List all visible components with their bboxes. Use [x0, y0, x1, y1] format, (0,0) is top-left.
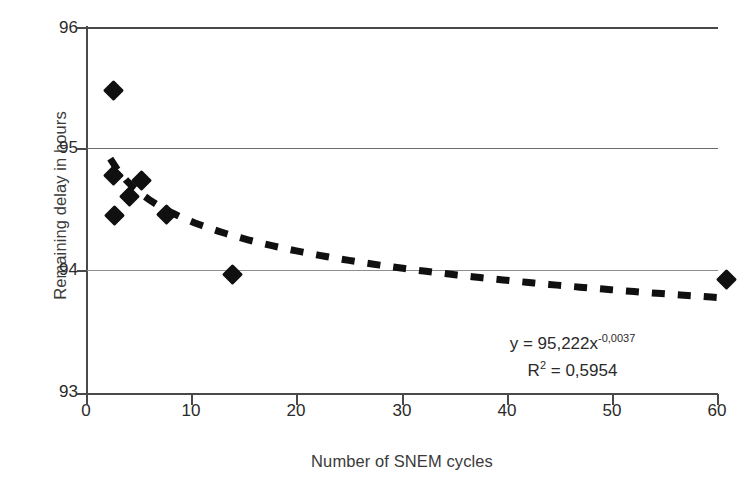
- x-tickmark-20: [296, 394, 298, 405]
- scatter-chart-figure: Remaining delay in hours 96 95 94 93 0 1…: [0, 0, 739, 493]
- x-tickmark-60: [717, 394, 719, 405]
- equation-line-2: R2 = 0,5954: [430, 357, 715, 384]
- y-tick-label-93: 93: [34, 383, 78, 400]
- y-tick-label-96: 96: [34, 19, 78, 36]
- x-tickmark-10: [191, 394, 193, 405]
- y-tick-label-94: 94: [34, 261, 78, 278]
- equation-line-1: y = 95,222x-0,0037: [430, 330, 715, 357]
- equation-base: y = 95,222x: [510, 334, 598, 353]
- y-axis-tick-labels: 96 95 94 93: [22, 0, 78, 493]
- trendline-equation-annotation: y = 95,222x-0,0037 R2 = 0,5954: [430, 330, 715, 384]
- x-tickmark-40: [507, 394, 509, 405]
- x-tick-label-60: 60: [692, 402, 739, 419]
- r-squared-value: = 0,5954: [546, 361, 617, 380]
- x-tickmark-30: [402, 394, 404, 405]
- x-tickmark-50: [612, 394, 614, 405]
- equation-exponent: -0,0037: [598, 332, 635, 344]
- x-tickmark-0: [86, 394, 88, 405]
- x-axis-title: Number of SNEM cycles: [86, 452, 718, 471]
- y-tick-label-95: 95: [34, 139, 78, 156]
- r-squared-symbol: R: [528, 361, 540, 380]
- data-point: [716, 269, 737, 290]
